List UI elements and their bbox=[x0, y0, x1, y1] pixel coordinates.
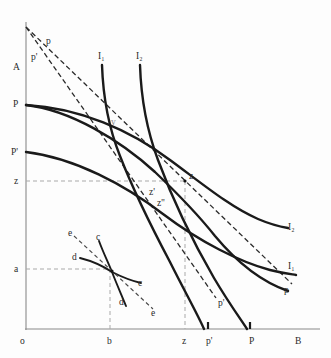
axis-label-b: b bbox=[107, 337, 112, 347]
label-price-line-pprime-top: p' bbox=[31, 53, 37, 63]
label-indiff-1-top: I₁ bbox=[98, 52, 104, 62]
axis-label-a: a bbox=[14, 265, 18, 275]
axis-label-z-horizontal: z bbox=[182, 337, 186, 347]
label-point-z: z bbox=[189, 172, 193, 182]
figure-svg bbox=[0, 0, 331, 358]
label-price-line-p-right: p bbox=[284, 286, 289, 296]
label-curve-e-lower: e bbox=[151, 309, 155, 319]
economics-diagram: A P P' z a o b z p' P B p p' I₁ I₂ v z z… bbox=[0, 0, 331, 358]
label-indiff-2-top: I₂ bbox=[136, 52, 142, 62]
axis-label-P-prime: P' bbox=[11, 148, 18, 158]
axis-label-z-vertical: z bbox=[14, 177, 18, 187]
point-z-marker bbox=[183, 179, 186, 182]
label-point-z-prime: z' bbox=[149, 188, 155, 198]
price-line-p-prime bbox=[26, 27, 216, 298]
axis-label-p-prime-horizontal: p' bbox=[206, 337, 212, 347]
label-point-z-double-prime: z'' bbox=[157, 199, 165, 209]
label-curve-e-upper: e bbox=[68, 229, 72, 239]
indifference-curve-I2 bbox=[140, 65, 247, 329]
axis-label-P: P bbox=[13, 100, 18, 110]
label-price-line-pprime-low: p' bbox=[218, 299, 224, 309]
label-indiff-2-right: I₂ bbox=[288, 223, 294, 233]
label-price-line-p-top: p bbox=[46, 37, 51, 47]
axis-label-B: B bbox=[295, 337, 301, 347]
axis-label-origin: o bbox=[20, 337, 25, 347]
label-curve-c-lower: c bbox=[138, 279, 142, 289]
label-curve-d-lower: d bbox=[119, 298, 124, 308]
axis-label-A: A bbox=[13, 63, 20, 73]
label-curve-d-upper: d bbox=[72, 253, 77, 263]
point-tangency-marker bbox=[110, 269, 113, 272]
label-curve-c-upper: c bbox=[96, 233, 100, 243]
price-line-p bbox=[26, 27, 292, 284]
axis-label-P-horizontal: P bbox=[249, 337, 254, 347]
label-point-v: v bbox=[111, 118, 116, 128]
label-indiff-1-right: I₁ bbox=[288, 262, 294, 272]
